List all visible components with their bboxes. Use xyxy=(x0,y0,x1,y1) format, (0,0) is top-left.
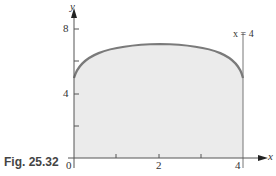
y-tick-8: 8 xyxy=(63,23,69,34)
x-tick-0: 0 xyxy=(66,160,72,171)
x-tick-2: 2 xyxy=(156,160,162,171)
figure-caption: Fig. 25.32 xyxy=(4,155,59,169)
x-axis-label: x xyxy=(268,151,273,162)
shaded-region xyxy=(74,44,243,158)
y-tick-4: 4 xyxy=(63,88,69,99)
x-tick-4: 4 xyxy=(235,160,241,171)
y-axis-label: y xyxy=(70,1,75,12)
line-label-x4: x = 4 xyxy=(233,29,254,39)
x-axis-arrow-icon xyxy=(258,155,268,161)
chart-plot xyxy=(0,0,276,176)
